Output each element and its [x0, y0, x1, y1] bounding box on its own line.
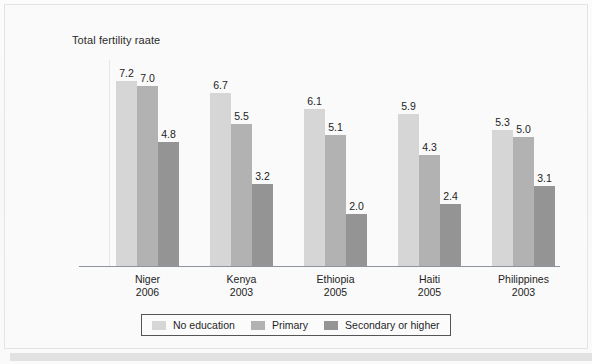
bar-wrap: 2.0: [346, 60, 367, 266]
bar-wrap: 5.0: [513, 60, 534, 266]
category-name: Philippines: [498, 273, 549, 285]
bar-value-label: 4.3: [422, 141, 437, 153]
page-background: Total fertility raate 7.27.04.8Niger2006…: [0, 0, 592, 364]
bar-value-label: 2.4: [443, 190, 458, 202]
bar-wrap: 5.5: [231, 60, 252, 266]
category-name: Ethiopia: [317, 273, 355, 285]
bar-group-haiti: 5.94.32.4Haiti2005: [398, 60, 461, 266]
bar-haiti-no-education: [398, 114, 419, 266]
bar-group-ethiopia: 6.15.12.0Ethiopia2005: [304, 60, 367, 266]
bar-wrap: 5.3: [492, 60, 513, 266]
category-year: 2006: [135, 286, 160, 299]
legend-item-primary[interactable]: Primary: [251, 319, 308, 331]
bar-value-label: 5.3: [495, 116, 510, 128]
bar-value-label: 3.1: [537, 172, 552, 184]
bar-philippines-no-education: [492, 130, 513, 266]
bar-group-philippines: 5.35.03.1Philippines2003: [492, 60, 555, 266]
bar-value-label: 6.1: [307, 95, 322, 107]
bar-wrap: 4.3: [419, 60, 440, 266]
bar-kenya-secondary-or-higher: [252, 184, 273, 266]
bar-value-label: 5.5: [234, 110, 249, 122]
bar-value-label: 7.2: [119, 67, 134, 79]
bar-group-kenya: 6.75.53.2Kenya2003: [210, 60, 273, 266]
bar-wrap: 2.4: [440, 60, 461, 266]
category-label-ethiopia: Ethiopia2005: [317, 273, 355, 299]
bars: 7.27.04.8: [116, 60, 179, 266]
bars: 6.15.12.0: [304, 60, 367, 266]
category-year: 2003: [498, 286, 549, 299]
bar-wrap: 5.1: [325, 60, 346, 266]
category-year: 2003: [227, 286, 257, 299]
bar-kenya-no-education: [210, 93, 231, 266]
bar-wrap: 7.2: [116, 60, 137, 266]
bar-wrap: 4.8: [158, 60, 179, 266]
bars: 6.75.53.2: [210, 60, 273, 266]
category-name: Kenya: [227, 273, 257, 285]
bottom-band: [10, 353, 592, 361]
category-label-kenya: Kenya2003: [227, 273, 257, 299]
bar-value-label: 2.0: [349, 200, 364, 212]
bar-wrap: 6.1: [304, 60, 325, 266]
bar-niger-secondary-or-higher: [158, 142, 179, 266]
x-axis-line: [79, 266, 560, 267]
bar-wrap: 3.2: [252, 60, 273, 266]
bar-value-label: 7.0: [140, 72, 155, 84]
bars: 5.35.03.1: [492, 60, 555, 266]
bar-wrap: 5.9: [398, 60, 419, 266]
y-axis-line: [109, 60, 110, 267]
legend-label: Secondary or higher: [345, 319, 440, 331]
bar-kenya-primary: [231, 124, 252, 266]
bar-value-label: 6.7: [213, 79, 228, 91]
bar-haiti-primary: [419, 155, 440, 266]
bar-wrap: 7.0: [137, 60, 158, 266]
bar-ethiopia-primary: [325, 135, 346, 266]
bar-wrap: 6.7: [210, 60, 231, 266]
bar-niger-no-education: [116, 81, 137, 266]
legend-label: Primary: [272, 319, 308, 331]
bars: 5.94.32.4: [398, 60, 461, 266]
category-label-philippines: Philippines2003: [498, 273, 549, 299]
chart-legend: No educationPrimarySecondary or higher: [141, 314, 451, 336]
category-year: 2005: [317, 286, 355, 299]
chart-title: Total fertility raate: [72, 34, 160, 46]
legend-swatch-icon: [324, 321, 338, 330]
legend-item-secondary-or-higher[interactable]: Secondary or higher: [324, 319, 440, 331]
bar-value-label: 4.8: [161, 128, 176, 140]
legend-swatch-icon: [152, 321, 166, 330]
legend-swatch-icon: [251, 321, 265, 330]
bar-value-label: 5.9: [401, 100, 416, 112]
legend-item-no-education[interactable]: No education: [152, 319, 235, 331]
bar-value-label: 3.2: [255, 170, 270, 182]
bar-ethiopia-secondary-or-higher: [346, 214, 367, 266]
bar-philippines-primary: [513, 137, 534, 266]
chart-figure: Total fertility raate 7.27.04.8Niger2006…: [4, 4, 588, 349]
bar-niger-primary: [137, 86, 158, 266]
plot-area: 7.27.04.8Niger20066.75.53.2Kenya20036.15…: [90, 60, 560, 267]
bar-ethiopia-no-education: [304, 109, 325, 266]
bar-value-label: 5.0: [516, 123, 531, 135]
bar-wrap: 3.1: [534, 60, 555, 266]
category-label-haiti: Haiti2005: [418, 273, 441, 299]
category-label-niger: Niger2006: [135, 273, 160, 299]
bar-philippines-secondary-or-higher: [534, 186, 555, 266]
bar-haiti-secondary-or-higher: [440, 204, 461, 266]
bar-group-niger: 7.27.04.8Niger2006: [116, 60, 179, 266]
bar-value-label: 5.1: [328, 121, 343, 133]
category-name: Haiti: [419, 273, 440, 285]
category-year: 2005: [418, 286, 441, 299]
legend-label: No education: [173, 319, 235, 331]
category-name: Niger: [135, 273, 160, 285]
